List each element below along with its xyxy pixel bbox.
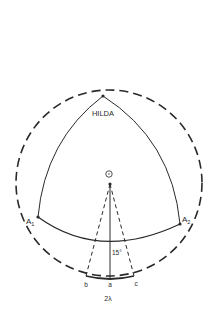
label-angle: 15° xyxy=(112,249,122,256)
dashed-line-center-c xyxy=(110,184,134,276)
point-center xyxy=(108,182,111,185)
dashed-line-center-b xyxy=(86,184,110,276)
label-2lambda: 2λ xyxy=(104,295,112,302)
label-a2: A2 xyxy=(182,215,190,225)
arc-a1-a2 xyxy=(38,217,180,241)
point-a1 xyxy=(36,215,39,218)
sun-icon xyxy=(106,171,112,177)
label-b: b xyxy=(84,281,88,288)
label-hilda: HILDA xyxy=(92,109,114,118)
label-c: c xyxy=(134,280,138,287)
label-a: a xyxy=(108,281,112,288)
arc-hilda-a2 xyxy=(103,96,180,224)
label-a1: A1 xyxy=(26,217,34,227)
point-hilda xyxy=(101,94,104,97)
orbit-diagram: HILDA A1 A2 15° b a c 2λ xyxy=(0,0,215,318)
